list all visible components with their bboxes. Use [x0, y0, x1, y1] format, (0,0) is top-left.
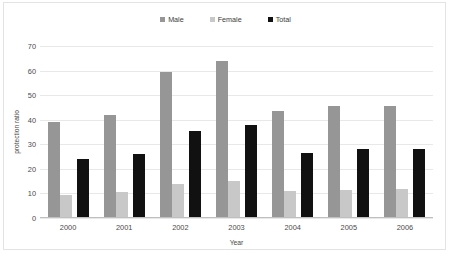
- legend-swatch-icon: [210, 17, 215, 22]
- bar-total[interactable]: [133, 154, 145, 218]
- chart-legend: MaleFemaleTotal: [4, 15, 447, 24]
- bar-group: [265, 46, 321, 218]
- bar-group: [152, 46, 208, 218]
- chart-container: MaleFemaleTotal protection ratio 0102030…: [3, 2, 446, 250]
- bar-male[interactable]: [104, 115, 116, 218]
- bar-total[interactable]: [245, 125, 257, 218]
- x-axis-tick-labels: 2000200120022003200420052006: [40, 223, 433, 232]
- plot-area: 010203040506070: [40, 46, 433, 218]
- bar-male[interactable]: [216, 61, 228, 218]
- bar-group: [96, 46, 152, 218]
- bar-male[interactable]: [160, 72, 172, 218]
- bar-female[interactable]: [340, 190, 352, 218]
- bar-female[interactable]: [60, 195, 72, 218]
- x-axis-tick-label: 2005: [321, 223, 377, 232]
- y-axis-tick-label: 40: [28, 115, 36, 124]
- y-axis-tick-label: 0: [32, 214, 36, 223]
- y-axis-title: protection ratio: [13, 110, 20, 154]
- legend-label: Female: [218, 15, 242, 24]
- bar-female[interactable]: [228, 181, 240, 218]
- x-axis-tick-label: 2003: [208, 223, 264, 232]
- bar-male[interactable]: [384, 106, 396, 218]
- bar-group: [377, 46, 433, 218]
- legend-item[interactable]: Female: [210, 15, 242, 24]
- legend-label: Total: [276, 15, 291, 24]
- bar-female[interactable]: [172, 184, 184, 218]
- legend-item[interactable]: Male: [160, 15, 184, 24]
- y-axis-tick-label: 30: [28, 140, 36, 149]
- y-axis-tick-label: 70: [28, 42, 36, 51]
- legend-swatch-icon: [160, 17, 165, 22]
- x-axis-tick-label: 2004: [265, 223, 321, 232]
- bar-male[interactable]: [272, 111, 284, 218]
- bar-group: [208, 46, 264, 218]
- bar-group: [40, 46, 96, 218]
- x-axis-tick-label: 2001: [96, 223, 152, 232]
- x-axis-tick-label: 2006: [377, 223, 433, 232]
- bar-group: [321, 46, 377, 218]
- x-axis-title: Year: [40, 239, 433, 246]
- bar-total[interactable]: [77, 159, 89, 218]
- bar-total[interactable]: [189, 131, 201, 218]
- bar-female[interactable]: [396, 189, 408, 218]
- y-axis-tick-label: 50: [28, 91, 36, 100]
- legend-item[interactable]: Total: [268, 15, 291, 24]
- bar-total[interactable]: [301, 153, 313, 218]
- legend-label: Male: [168, 15, 184, 24]
- bar-female[interactable]: [116, 192, 128, 218]
- y-axis-tick-label: 10: [28, 189, 36, 198]
- x-axis-line: [40, 217, 433, 218]
- x-axis-tick-label: 2002: [152, 223, 208, 232]
- legend-swatch-icon: [268, 17, 273, 22]
- bar-male[interactable]: [328, 106, 340, 218]
- bar-groups: [40, 46, 433, 218]
- bar-male[interactable]: [48, 122, 60, 218]
- y-axis-tick-label: 20: [28, 164, 36, 173]
- x-axis-tick-label: 2000: [40, 223, 96, 232]
- bar-female[interactable]: [284, 191, 296, 218]
- bar-total[interactable]: [357, 149, 369, 218]
- gridline: [40, 218, 433, 219]
- y-axis-tick-label: 60: [28, 66, 36, 75]
- bar-total[interactable]: [413, 149, 425, 218]
